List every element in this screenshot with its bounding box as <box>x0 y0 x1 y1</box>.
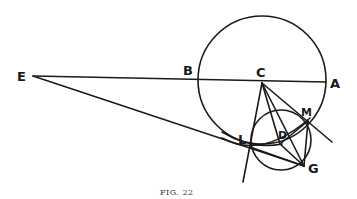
geometry-figure: E B C A M L D G FIG. 22 <box>0 0 357 199</box>
figure-caption: FIG. 22 <box>160 188 194 197</box>
label-C: C <box>256 65 266 80</box>
label-D: D <box>278 129 287 142</box>
label-B: B <box>183 63 193 78</box>
label-A: A <box>330 76 340 91</box>
label-E: E <box>17 69 26 84</box>
label-L: L <box>238 132 246 147</box>
label-M: M <box>301 106 312 119</box>
label-G: G <box>308 161 319 176</box>
arc-LM <box>222 118 310 146</box>
line-EA <box>33 76 326 82</box>
